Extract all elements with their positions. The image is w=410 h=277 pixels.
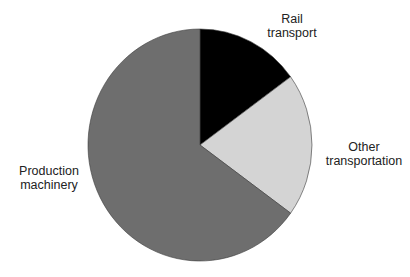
label-production-machinery: Production machinery <box>19 164 79 192</box>
label-other-transportation: Other transportation <box>326 140 402 168</box>
pie-slices <box>88 29 312 261</box>
pie-chart <box>0 0 410 277</box>
label-line: Other <box>326 140 402 154</box>
label-line: transport <box>267 26 316 40</box>
label-line: Production <box>19 164 79 178</box>
label-line: machinery <box>19 178 79 192</box>
label-line: transportation <box>326 154 402 168</box>
label-line: Rail <box>267 12 316 26</box>
label-rail-transport: Rail transport <box>267 12 316 40</box>
